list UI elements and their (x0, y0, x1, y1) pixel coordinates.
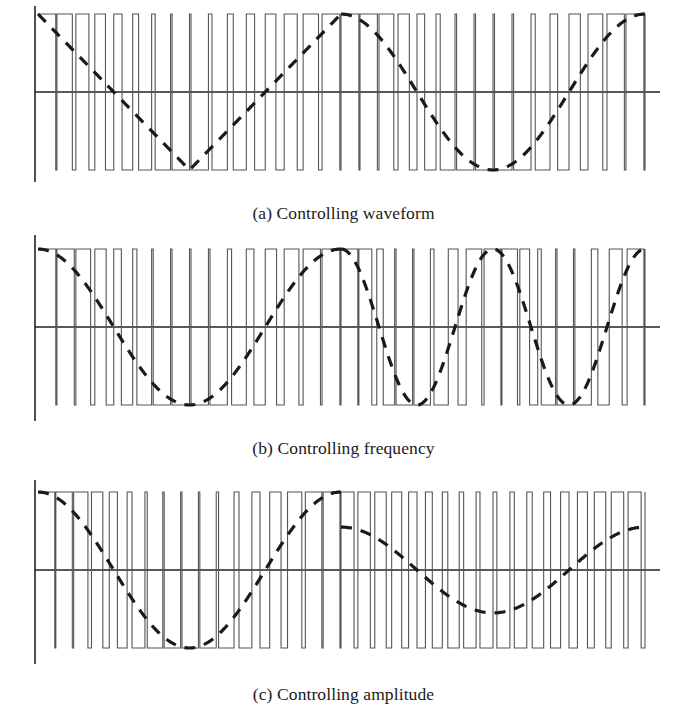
waveform-plot-a (0, 0, 687, 200)
waveform-plot-c (0, 478, 687, 678)
panel-controlling-frequency: (b) Controlling frequency (0, 235, 687, 480)
pwm-modulation-figure: (a) Controlling waveform (b) Controlling… (0, 0, 687, 725)
caption-panel-c: (c) Controlling amplitude (0, 684, 687, 705)
panel-controlling-amplitude: (c) Controlling amplitude (0, 478, 687, 725)
caption-panel-b: (b) Controlling frequency (0, 438, 687, 459)
waveform-plot-b (0, 235, 687, 435)
panel-controlling-waveform: (a) Controlling waveform (0, 0, 687, 245)
caption-panel-a: (a) Controlling waveform (0, 203, 687, 224)
